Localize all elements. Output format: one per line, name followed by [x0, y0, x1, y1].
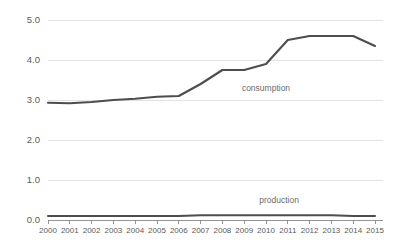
chart-background	[0, 0, 400, 251]
x-tick-label-2004: 2004	[126, 226, 144, 235]
x-tick-label-2013: 2013	[323, 226, 341, 235]
x-tick-label-2011: 2011	[279, 226, 297, 235]
x-tick-label-2005: 2005	[148, 226, 166, 235]
y-tick-label-0.0: 0.0	[27, 214, 40, 225]
x-tick-label-2009: 2009	[235, 226, 253, 235]
x-tick-label-2015: 2015	[366, 226, 384, 235]
x-tick-label-2010: 2010	[257, 226, 275, 235]
series-line-production	[48, 215, 375, 216]
y-tick-label-5.0: 5.0	[27, 14, 40, 25]
chart-canvas: 0.01.02.03.04.05.0 200020012002200320042…	[0, 0, 400, 251]
x-tick-label-2006: 2006	[170, 226, 188, 235]
line-chart: 0.01.02.03.04.05.0 200020012002200320042…	[0, 0, 400, 251]
x-tick-label-2002: 2002	[83, 226, 101, 235]
y-tick-label-4.0: 4.0	[27, 54, 40, 65]
y-tick-label-1.0: 1.0	[27, 174, 40, 185]
annotation-production: production	[259, 195, 299, 205]
x-tick-label-2003: 2003	[105, 226, 123, 235]
annotation-consumption: consumption	[242, 83, 290, 93]
x-tick-label-2012: 2012	[301, 226, 319, 235]
x-tick-label-2000: 2000	[39, 226, 57, 235]
x-tick-label-2001: 2001	[61, 226, 79, 235]
x-tick-label-2008: 2008	[214, 226, 232, 235]
y-tick-label-2.0: 2.0	[27, 134, 40, 145]
y-tick-label-3.0: 3.0	[27, 94, 40, 105]
x-tick-label-2014: 2014	[344, 226, 362, 235]
x-tick-label-2007: 2007	[192, 226, 210, 235]
